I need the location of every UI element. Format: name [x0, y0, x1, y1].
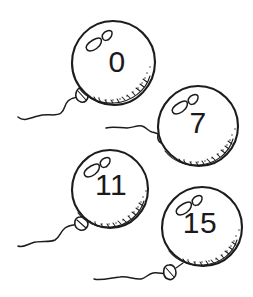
balloon-number-label: 15 — [183, 206, 217, 239]
balloon-string — [18, 222, 82, 247]
balloon-group-11: 11 — [18, 150, 148, 247]
balloon-string — [18, 94, 84, 119]
balloon-string — [94, 273, 170, 280]
balloon-number-label: 0 — [108, 45, 125, 78]
balloon-number-label: 11 — [95, 168, 127, 201]
illustration-canvas: 0 — [0, 0, 253, 297]
balloon-number-label: 7 — [189, 106, 206, 139]
balloon-group-0: 0 — [18, 21, 155, 119]
balloon-knot — [164, 263, 183, 280]
balloon-illustration: 0 — [0, 0, 253, 297]
